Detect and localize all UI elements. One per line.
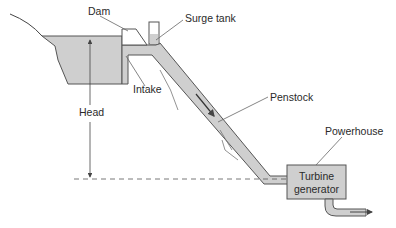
intake-pipe	[122, 43, 288, 184]
powerhouse-leader	[316, 137, 342, 165]
label-turbine: Turbine	[299, 170, 334, 182]
label-generator: generator	[294, 183, 339, 195]
label-surge-tank: Surge tank	[185, 12, 237, 24]
outlet-pipe	[325, 199, 366, 216]
reservoir	[42, 36, 122, 84]
terrain-bank	[10, 14, 42, 36]
label-intake: Intake	[133, 83, 162, 95]
dam	[122, 29, 147, 45]
label-penstock: Penstock	[270, 91, 314, 103]
label-powerhouse: Powerhouse	[325, 125, 384, 137]
penstock-highlight	[160, 70, 232, 150]
dam-leader	[100, 16, 128, 31]
label-head: Head	[79, 106, 104, 118]
penstock-leader	[218, 97, 268, 122]
surge-tank-leader	[156, 20, 183, 40]
intake-leader	[126, 56, 145, 86]
label-dam: Dam	[88, 5, 110, 17]
hydro-diagram: Dam Surge tank Intake Head Penstock Powe…	[0, 0, 396, 228]
